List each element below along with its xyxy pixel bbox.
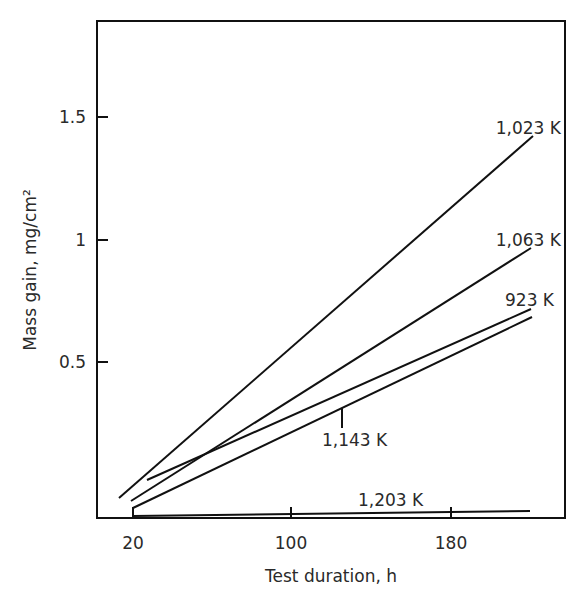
label-923k: 923 K [505, 290, 555, 310]
label-1023k: 1,023 K [496, 118, 562, 138]
line-1203k [133, 511, 530, 516]
y-axis: 1.5 1 0.5 Mass gain, mg/cm² [20, 107, 108, 372]
label-1143k: 1,143 K [322, 430, 388, 450]
line-1063k [131, 248, 531, 501]
line-1143k [133, 317, 532, 508]
y-tick-label: 0.5 [59, 352, 86, 372]
x-tick-label: 20 [122, 533, 144, 553]
y-tick-label: 1 [75, 230, 86, 250]
y-tick-label: 1.5 [59, 107, 86, 127]
chart: 1.5 1 0.5 Mass gain, mg/cm² 20 100 180 T… [0, 0, 587, 601]
line-923k [147, 309, 531, 480]
x-tick-label: 100 [275, 533, 307, 553]
label-1203k: 1,203 K [358, 490, 424, 510]
label-1063k: 1,063 K [496, 230, 562, 250]
x-axis-title: Test duration, h [264, 566, 397, 586]
series-lines [119, 136, 533, 518]
y-axis-title: Mass gain, mg/cm² [20, 189, 40, 351]
x-tick-label: 180 [435, 533, 467, 553]
